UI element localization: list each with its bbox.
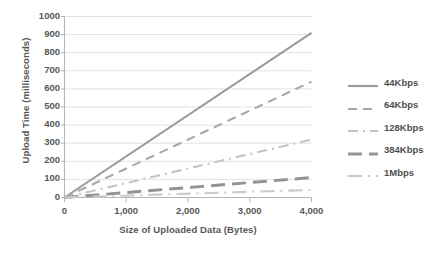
gridlines [65,17,312,198]
legend-swatch-icon [348,167,378,177]
legend-label: 44Kbps [384,77,418,88]
legend-item-128kbps[interactable]: 128Kbps [348,116,436,139]
legend-label: 384Kbps [384,144,424,155]
legend-label: 64Kbps [384,99,418,110]
legend-swatch-icon [348,100,378,110]
legend-label: 128Kbps [384,122,424,133]
data-series-group [65,33,312,198]
legend-item-1mbps[interactable]: 1Mbps [348,161,436,184]
legend-swatch-icon [348,145,378,155]
legend-item-44kbps[interactable]: 44Kbps [348,71,436,94]
series-line-44kbps [65,33,312,198]
x-axis-tick-marks [65,198,312,203]
chart-legend: 44Kbps64Kbps128Kbps384Kbps1Mbps [348,71,436,184]
legend-item-64kbps[interactable]: 64Kbps [348,94,436,117]
series-line-128kbps [65,140,312,198]
legend-swatch-icon [348,77,378,87]
series-line-1mbps [65,190,312,198]
legend-item-384kbps[interactable]: 384Kbps [348,139,436,162]
chart-container: Upload Time (milliseconds) Size of Uploa… [0,0,436,253]
legend-swatch-icon [348,122,378,132]
legend-label: 1Mbps [384,167,414,178]
